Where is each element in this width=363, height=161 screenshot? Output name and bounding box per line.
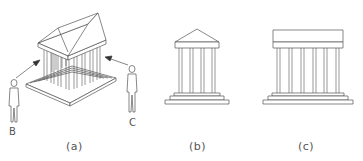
- front-elevation: [165, 29, 229, 104]
- panel-a-label: (a): [66, 140, 83, 153]
- viewer-b-label: B: [9, 126, 16, 137]
- panel-c-label: (c): [298, 140, 314, 153]
- side-elevation: [263, 30, 353, 104]
- viewer-b-figure: [9, 80, 19, 123]
- temple-diagram: [0, 0, 363, 161]
- viewer-b-arrow: [16, 60, 40, 78]
- panel-b-label: (b): [189, 140, 206, 153]
- isometric-temple: [26, 13, 116, 106]
- viewer-c-figure: [127, 66, 137, 113]
- viewer-c-label: C: [129, 117, 136, 128]
- viewer-c-arrow: [105, 56, 128, 65]
